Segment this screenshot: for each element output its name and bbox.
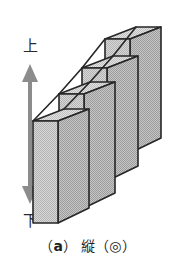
- figure-container: 上 下: [0, 0, 175, 276]
- caption-open-paren: （: [39, 238, 53, 254]
- caption-letter: a: [53, 238, 62, 254]
- caption-text: 縦（◎）: [81, 238, 135, 254]
- stepped-plates-illustration: [30, 18, 175, 232]
- figure-caption: （a） 縦（◎）: [0, 236, 175, 256]
- plate-front: [33, 109, 89, 223]
- caption-close-paren: ）: [63, 238, 77, 254]
